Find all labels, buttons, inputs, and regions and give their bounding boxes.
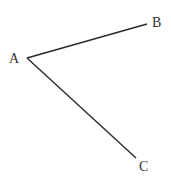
label-a: A bbox=[9, 51, 20, 66]
ray-ac bbox=[27, 58, 136, 158]
angle-diagram: A B C bbox=[0, 0, 171, 178]
ray-ab bbox=[27, 24, 147, 58]
label-b: B bbox=[152, 15, 161, 30]
label-c: C bbox=[139, 159, 148, 174]
